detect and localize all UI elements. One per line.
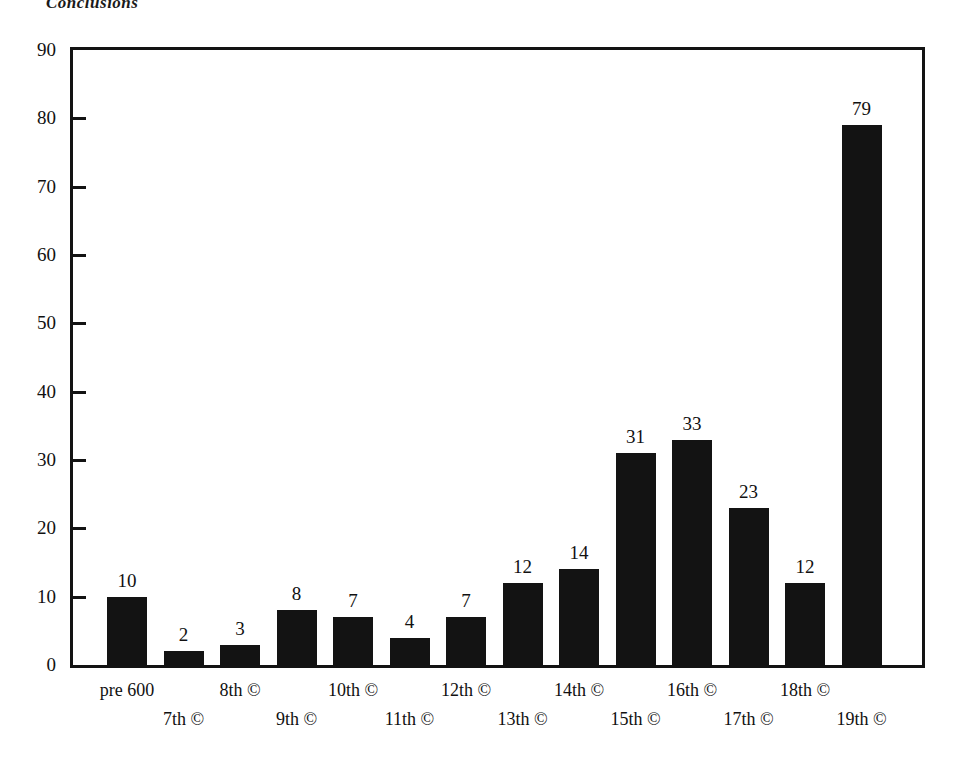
bar[interactable] — [616, 453, 656, 665]
y-tick-label: 40 — [0, 382, 56, 401]
y-tick-mark — [73, 322, 86, 325]
y-tick-label: 20 — [0, 518, 56, 537]
y-tick-label: 80 — [0, 108, 56, 127]
x-tick-label: 18th © — [750, 681, 860, 699]
y-tick-label: 50 — [0, 313, 56, 332]
bar[interactable] — [785, 583, 825, 665]
bar[interactable] — [390, 638, 430, 665]
bar-value-label: 12 — [775, 557, 835, 576]
x-tick-label: 16th © — [637, 681, 747, 699]
bar-value-label: 79 — [832, 99, 892, 118]
x-tick-label: 10th © — [298, 681, 408, 699]
bar-value-label: 31 — [606, 427, 666, 446]
bar-value-label: 12 — [493, 557, 553, 576]
bar[interactable] — [729, 508, 769, 665]
bar-value-label: 2 — [154, 625, 214, 644]
y-tick-label: 0 — [0, 655, 56, 674]
y-tick-mark — [73, 117, 86, 120]
bar-chart-figure: 0102030405060708090 pre 6007th ©8th ©9th… — [0, 0, 964, 759]
x-tick-label: 13th © — [468, 710, 578, 728]
y-tick-label: 70 — [0, 177, 56, 196]
bar-value-label: 8 — [267, 584, 327, 603]
bar-value-label: 3 — [210, 619, 270, 638]
bar-value-label: 7 — [436, 591, 496, 610]
y-tick-label: 90 — [0, 40, 56, 59]
bar[interactable] — [503, 583, 543, 665]
y-tick-mark — [73, 391, 86, 394]
bar[interactable] — [220, 645, 260, 666]
y-tick-label: 10 — [0, 587, 56, 606]
bar[interactable] — [333, 617, 373, 665]
bar-value-label: 4 — [380, 612, 440, 631]
x-tick-label: 12th © — [411, 681, 521, 699]
bar[interactable] — [842, 125, 882, 665]
x-tick-label: 7th © — [129, 710, 239, 728]
bar[interactable] — [446, 617, 486, 665]
y-tick-mark — [73, 186, 86, 189]
bar[interactable] — [672, 440, 712, 666]
x-tick-label: 19th © — [807, 710, 917, 728]
y-tick-mark — [73, 459, 86, 462]
bar[interactable] — [164, 651, 204, 665]
y-tick-label: 30 — [0, 450, 56, 469]
y-axis: 0102030405060708090 — [0, 0, 70, 759]
x-tick-label: 15th © — [581, 710, 691, 728]
x-tick-label: 8th © — [185, 681, 295, 699]
x-tick-label: 17th © — [694, 710, 804, 728]
bar-value-label: 14 — [549, 543, 609, 562]
y-tick-mark — [73, 527, 86, 530]
x-tick-label: pre 600 — [72, 681, 182, 699]
x-tick-label: 14th © — [524, 681, 634, 699]
bar[interactable] — [277, 610, 317, 665]
bar[interactable] — [559, 569, 599, 665]
bar-value-label: 23 — [719, 482, 779, 501]
x-tick-label: 9th © — [242, 710, 352, 728]
bar-value-label: 33 — [662, 414, 722, 433]
bar-value-label: 10 — [97, 571, 157, 590]
y-tick-label: 60 — [0, 245, 56, 264]
y-tick-mark — [73, 254, 86, 257]
y-tick-mark — [73, 596, 86, 599]
x-tick-label: 11th © — [355, 710, 465, 728]
bar[interactable] — [107, 597, 147, 665]
bar-value-label: 7 — [323, 591, 383, 610]
